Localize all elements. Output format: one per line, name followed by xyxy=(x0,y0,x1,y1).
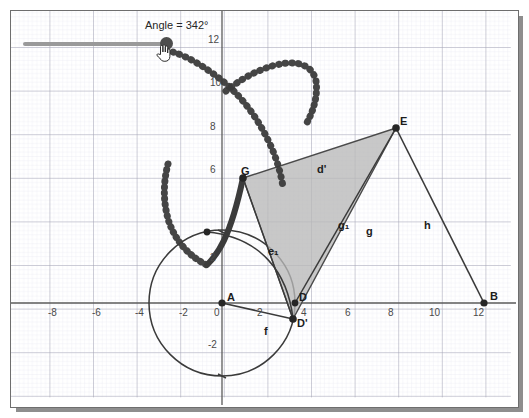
point-Dprime[interactable] xyxy=(289,315,297,323)
point-label-Dprime: D' xyxy=(297,317,308,329)
slider-track[interactable] xyxy=(23,42,168,46)
y-tick--2: -2 xyxy=(208,339,217,350)
y-tick-2: 2 xyxy=(210,252,216,263)
hand-pointer-icon xyxy=(155,43,171,62)
x-tick--8: -8 xyxy=(48,307,57,318)
geometry-board[interactable] xyxy=(11,11,516,405)
y-tick-10: 10 xyxy=(210,77,221,88)
arc-label-e1: e₁ xyxy=(268,245,279,257)
segment-label-g1: g₁ xyxy=(338,219,349,231)
geometry-app-window: -8 -6 -4 -2 0 2 4 6 8 10 12 -2 2 6 8 10 … xyxy=(0,0,529,418)
segment-label-g: g xyxy=(366,225,373,237)
x-tick-6: 6 xyxy=(345,307,351,318)
point-label-B: B xyxy=(490,290,498,302)
point-B[interactable] xyxy=(480,299,487,306)
point-E[interactable] xyxy=(392,124,400,132)
segment-label-h: h xyxy=(424,219,431,231)
segment-label-d1: d' xyxy=(317,163,326,175)
x-tick-0: 0 xyxy=(214,307,220,318)
segment-label-f: f xyxy=(264,325,268,337)
point-tangency[interactable] xyxy=(204,229,211,236)
angle-value-label: Angle = 342° xyxy=(145,19,208,31)
y-tick-6: 6 xyxy=(210,164,216,175)
point-label-G: G xyxy=(241,165,250,177)
x-tick-10: 10 xyxy=(429,307,440,318)
point-label-D: D xyxy=(299,291,307,303)
x-tick--6: -6 xyxy=(92,307,101,318)
point-label-A: A xyxy=(227,291,235,303)
y-tick-12: 12 xyxy=(208,34,219,45)
angle-slider[interactable] xyxy=(23,37,168,51)
x-tick-8: 8 xyxy=(388,307,394,318)
point-A[interactable] xyxy=(218,299,225,306)
y-tick-8: 8 xyxy=(210,121,216,132)
x-tick-2: 2 xyxy=(257,307,263,318)
x-tick--2: -2 xyxy=(179,307,188,318)
x-tick--4: -4 xyxy=(135,307,144,318)
point-label-E: E xyxy=(400,115,407,127)
geometry-canvas-frame[interactable]: -8 -6 -4 -2 0 2 4 6 8 10 12 -2 2 6 8 10 … xyxy=(10,10,519,408)
x-tick-12: 12 xyxy=(473,307,484,318)
point-D[interactable] xyxy=(292,300,299,307)
